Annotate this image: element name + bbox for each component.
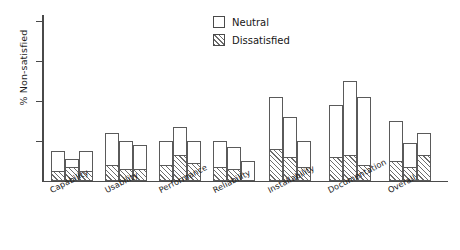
y-axis-title: % Non-satisfied (18, 8, 29, 128)
bar-segment-neutral (283, 117, 297, 157)
y-axis-tick (36, 101, 42, 102)
legend-swatch-dissatisfied (213, 34, 225, 46)
bar[interactable] (51, 151, 65, 181)
bar[interactable] (213, 141, 227, 181)
bar-segment-neutral (159, 141, 173, 165)
bar[interactable] (417, 133, 431, 181)
bar-segment-neutral (119, 141, 133, 169)
legend-label: Dissatisfied (232, 35, 290, 46)
bar-group (51, 15, 93, 181)
bar-segment-neutral (213, 141, 227, 167)
bar[interactable] (329, 105, 343, 181)
legend-item[interactable]: Neutral (213, 14, 290, 30)
bar-segment-dissatisfied (417, 155, 431, 181)
bar-group (105, 15, 147, 181)
bar-segment-neutral (389, 121, 403, 161)
y-axis-tick (36, 21, 42, 22)
bar[interactable] (389, 121, 403, 181)
bar-segment-dissatisfied (269, 149, 283, 181)
bar-segment-neutral (133, 145, 147, 169)
chart-container: % Non-satisfied CapabilityUsabilityPerfo… (0, 0, 460, 250)
bar-segment-neutral (269, 97, 283, 149)
bar[interactable] (269, 97, 283, 181)
y-axis-tick (36, 141, 42, 142)
bar[interactable] (105, 133, 119, 181)
bar-group (329, 15, 371, 181)
bar-segment-neutral (227, 147, 241, 169)
bar-segment-neutral (105, 133, 119, 165)
bar-segment-neutral (173, 127, 187, 155)
y-axis-tick (36, 61, 42, 62)
bar-segment-neutral (417, 133, 431, 155)
legend-swatch-neutral (213, 16, 225, 28)
bar-group (389, 15, 431, 181)
legend-label: Neutral (232, 17, 269, 28)
chart-legend: NeutralDissatisfied (213, 14, 290, 50)
bar-segment-neutral (357, 97, 371, 165)
bar-group (159, 15, 201, 181)
bar-segment-neutral (65, 159, 79, 167)
bar-segment-neutral (403, 143, 417, 167)
bar-segment-neutral (187, 141, 201, 163)
bar[interactable] (159, 141, 173, 181)
legend-item[interactable]: Dissatisfied (213, 32, 290, 48)
bar[interactable] (343, 81, 357, 181)
bar-segment-neutral (343, 81, 357, 155)
bar-segment-neutral (329, 105, 343, 157)
bar-segment-neutral (51, 151, 65, 171)
x-axis-line (42, 181, 448, 182)
